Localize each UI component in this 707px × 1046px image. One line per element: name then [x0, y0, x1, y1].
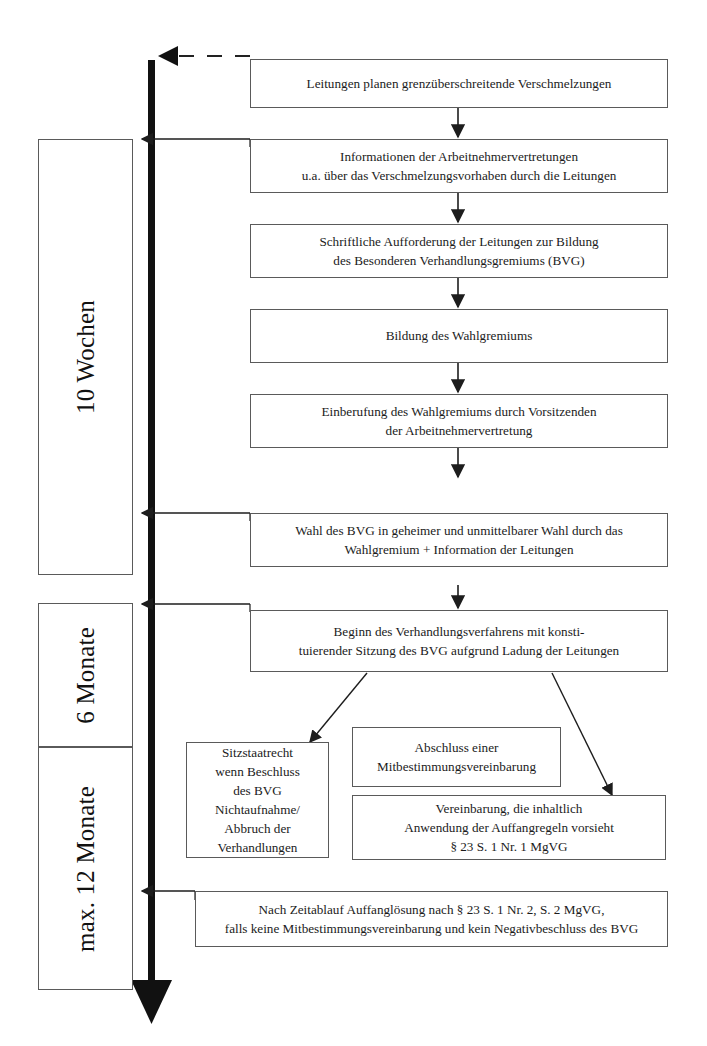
step-box-auffangloesung: Nach Zeitablauf Auffanglösung nach § 23 … — [195, 891, 668, 947]
step-box-schriftliche-aufforderung: Schriftliche Aufforderung der Leitungen … — [250, 224, 668, 278]
outcome-box-sitzstaatrecht: Sitzstaatrecht wenn Beschluss des BVG Ni… — [186, 742, 329, 858]
phase-label-10-wochen: 10 Wochen — [72, 300, 100, 414]
outcome-text-abschluss-vereinbarung: Abschluss einer Mitbestimmungsvereinbaru… — [377, 738, 536, 776]
phase-box-10-wochen: 10 Wochen — [38, 139, 133, 575]
step-text-informationen: Informationen der Arbeitnehmervertretung… — [302, 147, 617, 185]
step-text-bildung-wahlgremium: Bildung des Wahlgremiums — [386, 326, 533, 345]
timeline-spine — [148, 60, 155, 990]
step-text-schriftliche-aufforderung: Schriftliche Aufforderung der Leitungen … — [319, 232, 598, 270]
step-box-beginn-verhandlungsverfahren: Beginn des Verhandlungsverfahrens mit ko… — [250, 610, 668, 672]
outcome-text-sitzstaatrecht: Sitzstaatrecht wenn Beschluss des BVG Ni… — [215, 743, 300, 858]
step-box-bildung-wahlgremium: Bildung des Wahlgremiums — [250, 309, 668, 363]
outcome-text-auffangregeln: Vereinbarung, die inhaltlich Anwendung d… — [404, 799, 614, 856]
step-text-beginn-verhandlungsverfahren: Beginn des Verhandlungsverfahrens mit ko… — [299, 622, 619, 660]
step-text-leitungen-planen: Leitungen planen grenzüberschreitende Ve… — [307, 74, 612, 93]
flowchart-diagram: 10 Wochen 6 Monate max. 12 Monate Leitun… — [0, 0, 707, 1046]
outcome-box-abschluss-vereinbarung: Abschluss einer Mitbestimmungsvereinbaru… — [352, 727, 561, 787]
phase-label-max-12-monate: max. 12 Monate — [72, 786, 100, 952]
outcome-box-auffangregeln: Vereinbarung, die inhaltlich Anwendung d… — [352, 795, 666, 860]
phase-box-6-monate: 6 Monate — [38, 603, 133, 747]
step-box-informationen: Informationen der Arbeitnehmervertretung… — [250, 139, 668, 193]
step-text-wahl-bvg: Wahl des BVG in geheimer und unmittelbar… — [295, 521, 623, 559]
step-box-leitungen-planen: Leitungen planen grenzüberschreitende Ve… — [250, 59, 668, 108]
step-text-einberufung-wahlgremium: Einberufung des Wahlgremiums durch Vorsi… — [321, 402, 596, 440]
phase-box-max-12-monate: max. 12 Monate — [38, 747, 133, 990]
step-box-einberufung-wahlgremium: Einberufung des Wahlgremiums durch Vorsi… — [250, 394, 668, 448]
phase-label-6-monate: 6 Monate — [72, 627, 100, 724]
step-box-wahl-bvg: Wahl des BVG in geheimer und unmittelbar… — [250, 513, 668, 567]
step-text-auffangloesung: Nach Zeitablauf Auffanglösung nach § 23 … — [225, 900, 639, 938]
